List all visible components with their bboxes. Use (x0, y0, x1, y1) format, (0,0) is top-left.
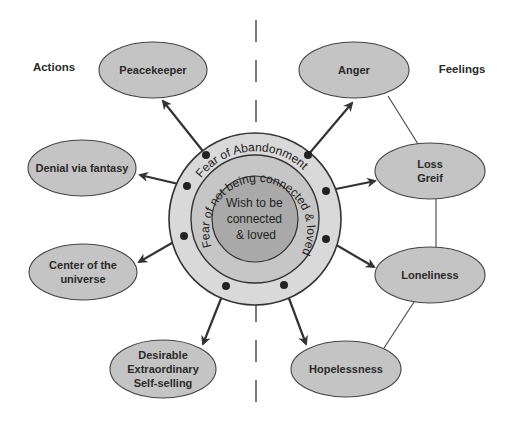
action-node-desirable: DesirableExtraordinarySelf-selling (110, 340, 216, 398)
dot-denial (183, 182, 191, 190)
dot-center-universe (180, 232, 188, 240)
arrow-peacekeeper (163, 101, 206, 155)
link-anger-loss-greif (388, 96, 418, 144)
ellipse-center-universe (29, 244, 137, 300)
actions-label: Actions (33, 61, 75, 73)
label-loneliness: Loneliness (401, 269, 458, 281)
feeling-node-loss-greif: LossGreif (375, 143, 485, 199)
feeling-links (384, 96, 436, 348)
feeling-node-loneliness: Loneliness (375, 247, 485, 303)
abandonment-diagram: Actions Feelings Fear of Abandonment Fea… (0, 0, 513, 432)
dot-loss-greif (322, 187, 330, 195)
label-anger: Anger (338, 64, 371, 76)
label-peacekeeper: Peacekeeper (119, 64, 187, 76)
dot-anger (304, 151, 312, 159)
dot-hopelessness (280, 281, 288, 289)
action-node-center-universe: Center of theuniverse (29, 244, 137, 300)
action-node-peacekeeper: Peacekeeper (99, 42, 207, 98)
action-node-denial: Denial via fantasy (28, 140, 136, 196)
feeling-node-anger: Anger (299, 42, 409, 98)
label-hopelessness: Hopelessness (309, 363, 383, 375)
label-denial: Denial via fantasy (36, 162, 130, 174)
dot-peacekeeper (202, 151, 210, 159)
ellipse-loss-greif (375, 143, 485, 199)
dot-loneliness (322, 235, 330, 243)
dot-desirable (222, 282, 230, 290)
feelings-label: Feelings (439, 63, 486, 75)
arrow-anger (308, 103, 352, 155)
link-loneliness-hopelessness (384, 302, 414, 348)
feeling-node-hopelessness: Hopelessness (291, 341, 401, 397)
